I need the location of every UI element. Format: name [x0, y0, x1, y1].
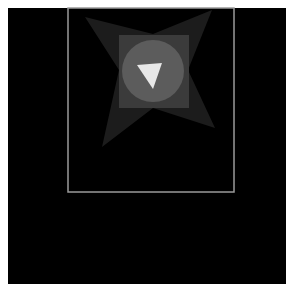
scene-graphic	[0, 0, 290, 290]
